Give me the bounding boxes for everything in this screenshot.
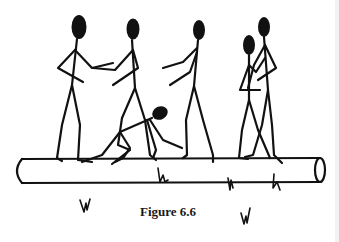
figure-caption: Figure 6.6 xyxy=(140,204,196,220)
log xyxy=(17,158,325,183)
handshake-right-figure xyxy=(93,19,156,165)
handshake-left-figure xyxy=(57,15,113,162)
page-edge xyxy=(335,0,339,242)
crouching-figure xyxy=(82,104,182,162)
reaching-figure xyxy=(163,20,213,162)
